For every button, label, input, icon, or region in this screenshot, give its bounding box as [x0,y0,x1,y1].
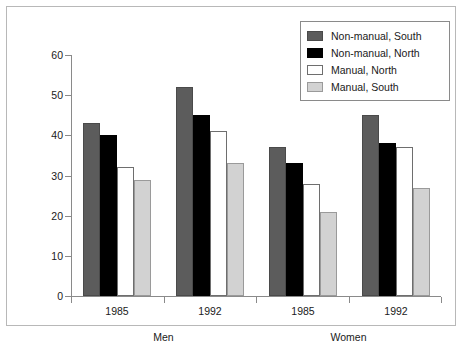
chart-figure: 0102030405060 % adults 1985199219851992 … [6,6,456,326]
legend-swatch-icon [307,48,323,58]
legend-item[interactable]: Manual, South [307,78,443,95]
bar [286,163,303,296]
legend-item[interactable]: Non-manual, North [307,44,443,61]
y-axis-tick [65,135,71,136]
bar [193,115,210,296]
y-axis-tick-labels: 0102030405060 [15,51,63,297]
y-axis-tick [65,256,71,257]
legend-item[interactable]: Non-manual, South [307,27,443,44]
x-axis-separator [71,297,72,303]
legend-item[interactable]: Manual, North [307,61,443,78]
legend-item-label: Non-manual, South [331,30,421,42]
bar-group [83,51,151,296]
legend-item-label: Non-manual, North [331,47,420,59]
x-axis-tick-label: 1992 [384,305,407,317]
y-axis-tick [65,95,71,96]
bar [210,131,227,296]
bar-group [176,51,244,296]
x-axis-separator [349,297,350,303]
y-axis-tick [65,176,71,177]
bar [176,87,193,296]
y-axis-line [71,55,72,297]
legend-item-label: Manual, North [331,64,397,76]
y-axis-tick-label: 60 [21,50,63,61]
legend-swatch-icon [307,65,323,75]
x-axis-tick-label: 1985 [291,305,314,317]
legend-swatch-icon [307,31,323,41]
x-axis-separator [441,297,442,303]
bar [100,135,117,296]
y-axis-tick [65,216,71,217]
x-axis-tick-label: 1992 [198,305,221,317]
y-axis-tick-label: 30 [21,170,63,181]
bar [269,147,286,296]
bar [320,212,337,296]
y-axis-tick-label: 50 [21,90,63,101]
x-axis-separator [164,297,165,303]
legend-swatch-icon [307,82,323,92]
y-axis-tick [65,55,71,56]
bar [227,163,244,296]
bar [396,147,413,296]
x-axis-supergroup-label: Women [331,331,367,343]
x-axis-tick-label: 1985 [105,305,128,317]
bar [413,188,430,296]
y-axis-tick-label: 0 [21,291,63,302]
x-axis-separator [256,297,257,303]
bar [379,143,396,296]
chart-legend: Non-manual, SouthNon-manual, NorthManual… [300,21,450,101]
y-axis-tick-label: 40 [21,130,63,141]
y-axis-tick-label: 20 [21,210,63,221]
bar [134,180,151,296]
x-axis-supergroup-label: Men [153,331,173,343]
y-axis-tick-label: 10 [21,251,63,262]
bar [83,123,100,296]
bar [362,115,379,296]
bar [117,167,134,296]
bar [303,184,320,296]
legend-item-label: Manual, South [331,81,399,93]
